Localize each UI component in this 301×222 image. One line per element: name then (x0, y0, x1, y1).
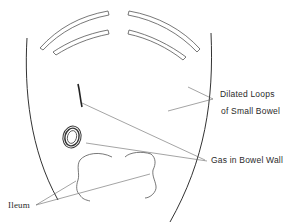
label-gas-in-bowel-wall: Gas in Bowel Wall (211, 155, 283, 165)
label-dilated-loops-line2: of Small Bowel (221, 106, 280, 116)
bowel-loop-upper-right (128, 11, 200, 52)
leader-dilated-2 (168, 99, 213, 111)
leader-ileum-2 (36, 174, 150, 205)
ileum-outline (77, 152, 156, 201)
gas-ring-inner (66, 130, 78, 145)
label-ileum: Ileum (8, 200, 30, 210)
abdomen-right-outline (170, 33, 212, 222)
abdomen-left-outline (26, 38, 58, 200)
bowel-loop-lower-right (128, 30, 186, 60)
bowel-loop-upper-left (40, 11, 109, 50)
leader-dilated-1 (188, 87, 213, 99)
label-dilated-loops-line1: Dilated Loops (220, 89, 275, 99)
leader-gas-2 (86, 143, 207, 161)
leader-ileum-1 (36, 181, 76, 205)
linear-gas-streak (78, 84, 82, 107)
